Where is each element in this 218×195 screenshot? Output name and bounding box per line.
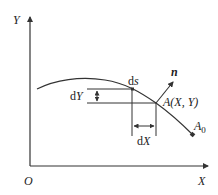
dx-label: dX [137, 134, 151, 148]
dy-label: dY [70, 89, 84, 103]
point-a0-label: A0 [193, 119, 206, 135]
point-a-label: A(X, Y) [162, 95, 198, 109]
dx-var: X [142, 134, 151, 148]
dy-var: Y [76, 89, 84, 103]
origin-label: O [24, 174, 33, 188]
a0-sub: 0 [201, 125, 206, 135]
curve-diagram: Y X O ds n A(X, Y) A0 dY dX [0, 0, 218, 195]
normal-vector-label: n [171, 65, 178, 79]
ds-label: ds [128, 74, 139, 88]
y-axis-label: Y [13, 13, 21, 27]
ds-var: s [134, 74, 139, 88]
x-axis-label: X [197, 174, 206, 188]
